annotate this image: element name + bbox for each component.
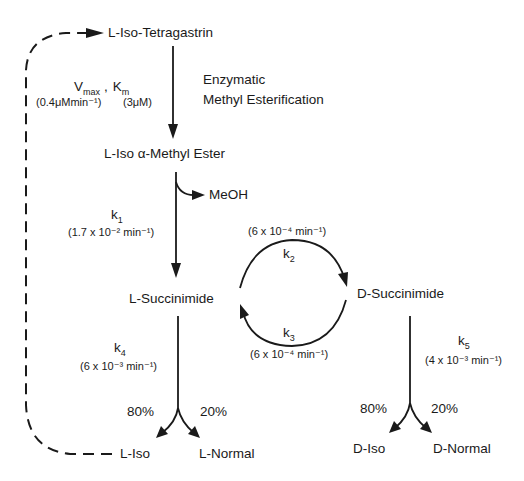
l-normal-branch [178,408,194,433]
node-d-normal: D-Normal [433,441,491,456]
d-normal-branch [410,403,426,428]
node-l-iso-methyl-ester: L-Iso α-Methyl Ester [104,146,226,161]
k3-arrowhead [240,304,249,319]
d-normal-arrowhead [420,421,432,433]
k5-value: (4 x 10⁻³ min⁻¹) [425,354,502,366]
vmax-label: Vmax,Km [74,79,129,97]
reaction-scheme-diagram: L-Iso-Tetragastrin L-Iso α-Methyl Ester … [0,0,524,481]
esterification-label-line1: Enzymatic [203,72,266,87]
node-d-iso: D-Iso [353,441,385,456]
l-iso-percent: 80% [127,404,154,419]
meoh-arrowhead [192,190,205,200]
k2-label: k2 [283,246,295,264]
vmax-value: (0.4μMmin⁻¹) [36,96,101,108]
k4-value: (6 x 10⁻³ min⁻¹) [80,360,157,372]
d-iso-percent: 80% [360,401,387,416]
node-l-normal: L-Normal [199,446,255,461]
l-iso-branch [162,408,178,433]
node-l-succinimide: L-Succinimide [129,291,214,306]
km-value: (3μM) [123,96,152,108]
d-iso-branch [395,403,410,428]
l-normal-percent: 20% [200,404,227,419]
k2-arc-arrow [240,240,345,288]
node-meoh: MeOH [209,187,248,202]
d-normal-percent: 20% [431,401,458,416]
l-normal-arrowhead [188,426,200,438]
k3-value: (6 x 10⁻⁴ min⁻¹) [250,348,328,360]
recycle-arrowhead [86,28,104,38]
k5-label: k5 [458,333,470,351]
k3-label: k3 [283,325,295,343]
k1-label: k1 [111,207,123,225]
k2-value: (6 x 10⁻⁴ min⁻¹) [248,225,326,237]
node-d-succinimide: D-Succinimide [357,286,444,301]
node-l-iso: L-Iso [120,446,150,461]
k1-arrowhead [171,263,181,278]
l-iso-arrowhead [156,426,168,438]
esterification-arrowhead [168,124,178,139]
esterification-label-line2: Methyl Esterification [203,92,324,107]
k2-arrowhead [338,272,348,287]
k4-label: k4 [114,340,126,358]
k1-value: (1.7 x 10⁻² min⁻¹) [68,226,154,238]
node-l-iso-tetragastrin: L-Iso-Tetragastrin [108,25,213,40]
